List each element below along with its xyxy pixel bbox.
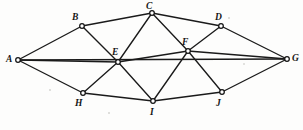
graph-edge-e-i [118, 62, 153, 101]
graph-vertex-b [80, 24, 85, 29]
graph-edge-f-i [153, 51, 188, 101]
graph-edge-f-j [188, 51, 222, 92]
vertex-label-f: F [182, 38, 189, 48]
vertex-label-i: I [150, 108, 154, 118]
edge-layer [18, 13, 287, 101]
graph-edge-d-f [188, 26, 221, 51]
paper-speck [243, 63, 245, 65]
vertex-label-d: D [215, 13, 222, 23]
graph-diagram-figure: ABCDEFGHIJ [0, 0, 303, 130]
vertex-label-b: B [72, 13, 79, 23]
vertex-label-e: E [112, 48, 119, 58]
paper-speck [49, 89, 51, 91]
vertex-label-a: A [6, 55, 13, 65]
graph-edge-a-g [18, 59, 287, 60]
vertex-label-j: J [216, 99, 221, 109]
graph-edge-i-j [153, 92, 222, 101]
graph-vertex-i [151, 99, 156, 104]
graph-vertex-h [81, 91, 86, 96]
graph-edge-a-h [18, 60, 83, 93]
graph-vertex-e [116, 60, 121, 65]
graph-edge-a-b [18, 26, 82, 60]
vertex-label-g: G [292, 54, 299, 64]
graph-vertex-a [16, 58, 21, 63]
graph-vertex-d [219, 24, 224, 29]
graph-vertex-f [186, 49, 191, 54]
graph-edge-b-c [82, 13, 152, 26]
graph-edge-h-i [83, 93, 153, 101]
graph-vertex-j [220, 90, 225, 95]
graph-edge-j-g [222, 59, 287, 92]
graph-edge-e-f [118, 51, 188, 62]
graph-edge-e-h [83, 62, 118, 93]
vertex-label-h: H [75, 99, 83, 109]
paper-speck [228, 17, 230, 19]
paper-speck [108, 112, 110, 114]
graph-vertex-g [285, 57, 290, 62]
vertex-label-c: C [146, 2, 153, 12]
graph-edge-c-e [118, 13, 152, 62]
